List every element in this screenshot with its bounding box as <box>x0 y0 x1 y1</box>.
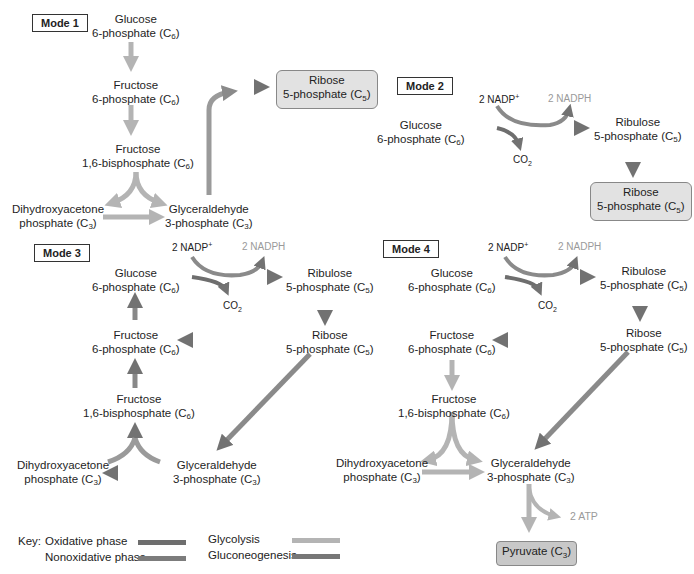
mode4-glucose-6-phosphate: Glucose 6-phosphate (C6) <box>408 266 496 294</box>
mode3-ribose-5-phosphate: Ribose 5-phosphate (C5) <box>286 328 374 356</box>
metabolite-name: Fructose <box>83 392 195 406</box>
metabolite-name: Glucose <box>92 12 180 26</box>
metabolite-name: Ribulose <box>600 264 688 278</box>
metabolite-formula: 6-phosphate (C6) <box>92 342 180 356</box>
metabolite-formula: 1,6-bisphosphate (C6) <box>83 406 195 420</box>
metabolite-name: Glucose <box>92 266 180 280</box>
legend-label-nonoxidative: Nonoxidative phase <box>45 551 146 563</box>
mode2-nadp-plus: 2 NADP+ <box>479 93 519 105</box>
legend-label-glycolysis: Glycolysis <box>208 533 260 545</box>
mode2-nadph: 2 NADPH <box>548 93 591 104</box>
legend-swatch-oxidative <box>138 540 186 545</box>
metabolite-name: Glyceraldehyde <box>165 202 253 216</box>
mode4-nadph: 2 NADPH <box>558 241 601 252</box>
mode4-arrows <box>422 257 640 525</box>
metabolite-name: Ribulose <box>286 266 374 280</box>
mode2-ribulose-5-phosphate: Ribulose 5-phosphate (C5) <box>594 115 682 143</box>
metabolite-formula: 6-phosphate (C6) <box>92 280 180 294</box>
metabolite-formula: phosphate (C3) <box>12 216 104 230</box>
mode3-nadp-plus: 2 NADP+ <box>172 241 212 253</box>
mode3-glucose-6-phosphate: Glucose 6-phosphate (C6) <box>92 266 180 294</box>
metabolite-name: Fructose <box>398 392 510 406</box>
mode3-glyceraldehyde-3-phosphate: Glyceraldehyde 3-phosphate (C3) <box>173 458 261 486</box>
mode2-label: Mode 2 <box>397 77 453 95</box>
metabolite-name: Glucose <box>408 266 496 280</box>
metabolite-name: Ribulose <box>594 115 682 129</box>
mode4-ribose-5-phosphate: Ribose 5-phosphate (C5) <box>600 326 688 354</box>
mode4-pyruvate-product: Pyruvate (C3) <box>496 541 577 566</box>
mode3-ribulose-5-phosphate: Ribulose 5-phosphate (C5) <box>286 266 374 294</box>
metabolite-formula: 6-phosphate (C6) <box>408 280 496 294</box>
mode4-fructose-6-phosphate: Fructose 6-phosphate (C6) <box>408 328 496 356</box>
metabolite-name: Dihydroxyacetone <box>17 458 109 472</box>
metabolite-formula: 5-phosphate (C5) <box>286 280 374 294</box>
mode4-glyceraldehyde-3-phosphate: Glyceraldehyde 3-phosphate (C3) <box>487 456 575 484</box>
mode4-ribulose-5-phosphate: Ribulose 5-phosphate (C5) <box>600 264 688 292</box>
metabolite-formula: 6-phosphate (C6) <box>408 342 496 356</box>
metabolite-formula: phosphate (C3) <box>336 470 428 484</box>
mode4-fructose-1-6-bisphosphate: Fructose 1,6-bisphosphate (C6) <box>398 392 510 420</box>
mode1-glucose-6-phosphate: Glucose 6-phosphate (C6) <box>92 12 180 40</box>
legend-label-gluconeogenesis: Gluconeogenesis <box>208 549 297 561</box>
metabolite-formula: 6-phosphate (C6) <box>92 26 180 40</box>
metabolite-formula: phosphate (C3) <box>17 472 109 486</box>
mode1-dihydroxyacetone-phosphate: Dihydroxyacetone phosphate (C3) <box>12 202 104 230</box>
legend-label-oxidative: Oxidative phase <box>45 535 127 547</box>
metabolite-name: Glucose <box>377 118 465 132</box>
mode4-co2: CO2 <box>538 300 557 313</box>
legend-swatch-nonoxidative <box>138 556 186 561</box>
mode1-label: Mode 1 <box>32 14 88 32</box>
metabolite-name: Ribose <box>283 73 371 87</box>
metabolite-name: Dihydroxyacetone <box>336 456 428 470</box>
metabolite-name: Fructose <box>82 142 194 156</box>
metabolite-name: Glyceraldehyde <box>173 458 261 472</box>
metabolite-formula: 1,6-bisphosphate (C6) <box>398 406 510 420</box>
mode1-ribose-5-phosphate-product: Ribose 5-phosphate (C5) <box>276 70 378 109</box>
metabolite-name: Fructose <box>92 78 180 92</box>
mode3-nadph: 2 NADPH <box>242 241 285 252</box>
mode3-co2: CO2 <box>223 300 242 313</box>
metabolite-formula: 3-phosphate (C3) <box>173 472 261 486</box>
mode2-glucose-6-phosphate: Glucose 6-phosphate (C6) <box>377 118 465 146</box>
metabolite-name: Fructose <box>408 328 496 342</box>
legend-swatch-glycolysis <box>292 538 340 543</box>
metabolite-formula: 5-phosphate (C5) <box>594 129 682 143</box>
mode3-label: Mode 3 <box>34 244 90 262</box>
metabolite-formula: 5-phosphate (C5) <box>286 342 374 356</box>
mode1-glyceraldehyde-3-phosphate: Glyceraldehyde 3-phosphate (C3) <box>165 202 253 230</box>
metabolite-name: Dihydroxyacetone <box>12 202 104 216</box>
metabolite-name: Ribose <box>597 185 685 199</box>
metabolite-name: Ribose <box>286 328 374 342</box>
mode3-dihydroxyacetone-phosphate: Dihydroxyacetone phosphate (C3) <box>17 458 109 486</box>
mode3-fructose-1-6-bisphosphate: Fructose 1,6-bisphosphate (C6) <box>83 392 195 420</box>
metabolite-name: Glyceraldehyde <box>487 456 575 470</box>
mode1-fructose-6-phosphate: Fructose 6-phosphate (C6) <box>92 78 180 106</box>
metabolite-formula: 1,6-bisphosphate (C6) <box>82 156 194 170</box>
metabolite-formula: 5-phosphate (C5) <box>283 87 371 106</box>
metabolite-name: Ribose <box>600 326 688 340</box>
mode4-atp: 2 ATP <box>570 510 598 522</box>
mode4-dihydroxyacetone-phosphate: Dihydroxyacetone phosphate (C3) <box>336 456 428 484</box>
metabolite-formula: 3-phosphate (C3) <box>487 470 575 484</box>
metabolite-formula: 6-phosphate (C6) <box>377 132 465 146</box>
mode4-label: Mode 4 <box>383 240 439 258</box>
mode1-arrows <box>103 42 262 217</box>
metabolite-formula: 3-phosphate (C3) <box>165 216 253 230</box>
mode3-fructose-6-phosphate: Fructose 6-phosphate (C6) <box>92 328 180 356</box>
legend-swatch-gluconeogenesis <box>292 554 340 559</box>
legend-title: Key: <box>18 535 41 547</box>
metabolite-formula: 5-phosphate (C5) <box>600 278 688 292</box>
metabolite-formula: 5-phosphate (C5) <box>600 340 688 354</box>
mode2-co2: CO2 <box>513 154 532 167</box>
metabolite-formula: 6-phosphate (C6) <box>92 92 180 106</box>
metabolite-name: Fructose <box>92 328 180 342</box>
mode2-ribose-5-phosphate-product: Ribose 5-phosphate (C5) <box>590 182 692 221</box>
mode4-nadp-plus: 2 NADP+ <box>488 241 528 253</box>
mode1-fructose-1-6-bisphosphate: Fructose 1,6-bisphosphate (C6) <box>82 142 194 170</box>
metabolite-formula: 5-phosphate (C5) <box>597 199 685 218</box>
